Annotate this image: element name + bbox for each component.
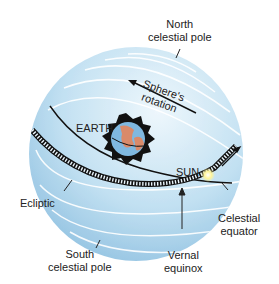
ecliptic-label: Ecliptic [20, 197, 55, 210]
earth-label: EARTH [76, 122, 113, 135]
sun-icon [201, 168, 215, 182]
sun-label: SUN [176, 166, 199, 179]
south-celestial-pole-label: South celestial pole [48, 248, 112, 274]
celestial-equator-label: Celestial equator [218, 212, 260, 238]
vernal-equinox-label: Vernal equinox [164, 249, 203, 275]
north-celestial-pole-label: North celestial pole [148, 18, 212, 44]
celestial-sphere-diagram [0, 0, 279, 284]
